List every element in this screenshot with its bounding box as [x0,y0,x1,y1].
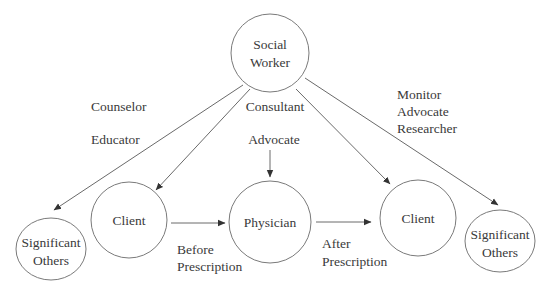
edge-label-before-line2: Prescription [177,259,242,274]
social-worker-roles-diagram: Social Worker Client Physician Client Si… [0,0,549,291]
node-physician: Physician [229,181,311,263]
node-client-right: Client [380,180,456,256]
role-label-advocate-right: Advocate [397,104,449,119]
edge-label-before-line1: Before [177,242,214,257]
node-client-left: Client [91,182,167,258]
node-significant-others-left-line1: Significant [21,235,80,250]
node-physician-label: Physician [244,215,297,230]
role-label-counselor: Counselor [91,99,147,114]
role-label-consultant: Consultant [246,99,305,114]
node-client-left-label: Client [113,213,146,228]
role-label-researcher: Researcher [397,121,457,136]
node-significant-others-left-line2: Others [33,253,69,268]
node-social-worker-line1: Social [253,37,287,52]
edge-label-after-line1: After [322,236,351,251]
node-social-worker-line2: Worker [250,55,291,70]
node-significant-others-left: Significant Others [16,218,86,280]
node-significant-others-right: Significant Others [465,210,535,272]
node-social-worker: Social Worker [231,14,309,92]
role-label-educator: Educator [91,132,140,147]
edge-label-after-line2: Prescription [322,254,387,269]
node-significant-others-right-line2: Others [482,245,518,260]
edge-social-worker-to-client-left [156,89,250,190]
role-label-monitor: Monitor [397,87,442,102]
node-significant-others-right-line1: Significant [470,227,529,242]
role-label-advocate-center: Advocate [248,132,300,147]
node-client-right-label: Client [402,211,435,226]
